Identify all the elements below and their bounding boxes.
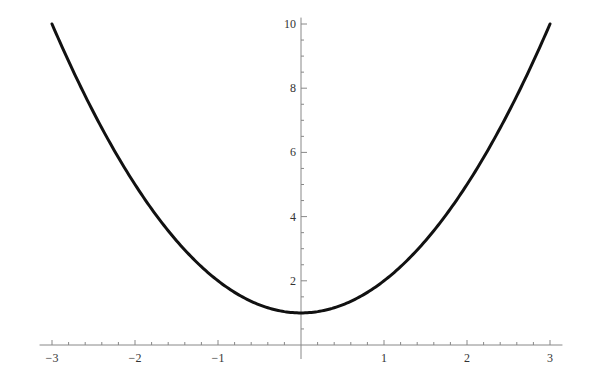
axis-ticks bbox=[52, 24, 550, 345]
axes bbox=[40, 18, 563, 359]
y-tick-label: 6 bbox=[290, 145, 296, 159]
plot-area: −3−2−1123246810 bbox=[0, 0, 601, 391]
x-tick-label: 1 bbox=[381, 351, 387, 365]
x-tick-label: 3 bbox=[547, 351, 553, 365]
y-tick-label: 2 bbox=[290, 274, 296, 288]
y-tick-label: 10 bbox=[284, 17, 296, 31]
x-tick-label: −1 bbox=[212, 351, 225, 365]
x-tick-label: 2 bbox=[464, 351, 470, 365]
y-tick-label: 8 bbox=[290, 81, 296, 95]
y-tick-label: 4 bbox=[290, 210, 296, 224]
x-tick-label: −3 bbox=[46, 351, 59, 365]
x-tick-label: −2 bbox=[129, 351, 142, 365]
